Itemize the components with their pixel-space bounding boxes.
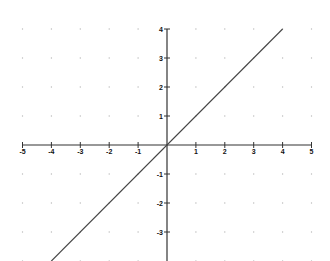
grid-dot — [253, 115, 254, 116]
grid-dot — [80, 86, 81, 87]
y-tick-label: 1 — [159, 113, 163, 120]
grid-dot — [311, 115, 312, 116]
grid-dot — [224, 115, 225, 116]
grid-dot — [282, 202, 283, 203]
grid-dot — [282, 57, 283, 58]
grid-dot — [137, 231, 138, 232]
grid-dot — [22, 202, 23, 203]
grid-dot — [224, 173, 225, 174]
grid-dot — [311, 173, 312, 174]
grid-dot — [224, 202, 225, 203]
grid-dot — [22, 231, 23, 232]
grid-dot — [51, 231, 52, 232]
grid-dot — [253, 202, 254, 203]
grid-dot — [253, 86, 254, 87]
grid-dot — [22, 115, 23, 116]
grid-dot — [253, 173, 254, 174]
grid-dot — [51, 28, 52, 29]
chart-plot: -5-4-3-2-112345 4321-1-2-3 — [0, 0, 330, 261]
grid-dot — [282, 173, 283, 174]
grid-dot — [109, 57, 110, 58]
grid-dot — [253, 28, 254, 29]
grid-dot — [22, 173, 23, 174]
grid-dot — [137, 115, 138, 116]
grid-dot — [282, 115, 283, 116]
grid-dot — [51, 115, 52, 116]
y-tick-label: 3 — [159, 55, 163, 62]
grid-dot — [109, 173, 110, 174]
grid-dot — [109, 28, 110, 29]
grid-dot — [195, 57, 196, 58]
grid-dot — [137, 28, 138, 29]
grid-dot — [195, 231, 196, 232]
x-tick-label: 3 — [252, 148, 256, 155]
y-tick-label: 4 — [159, 26, 163, 33]
grid-dot — [80, 173, 81, 174]
grid-dot — [80, 115, 81, 116]
y-tick-label: 2 — [159, 84, 163, 91]
grid-dot — [195, 28, 196, 29]
grid-dot — [51, 173, 52, 174]
x-tick-label: 4 — [281, 148, 285, 155]
grid-dot — [224, 28, 225, 29]
grid-dot — [51, 86, 52, 87]
x-tick-label: -3 — [77, 148, 83, 155]
x-tick-label: 1 — [194, 148, 198, 155]
grid-dot — [224, 231, 225, 232]
grid-dot — [195, 202, 196, 203]
grid-dot — [80, 202, 81, 203]
grid-dot — [311, 57, 312, 58]
grid-dot — [195, 173, 196, 174]
y-tick-label: -2 — [157, 200, 163, 207]
grid-dot — [51, 57, 52, 58]
grid-dot — [311, 202, 312, 203]
x-tick-label: -1 — [135, 148, 141, 155]
grid-dot — [109, 115, 110, 116]
grid-dot — [22, 57, 23, 58]
y-axis-ticks: 4321-1-2-3 — [157, 26, 170, 236]
x-tick-label: 5 — [310, 148, 314, 155]
grid-dot — [80, 28, 81, 29]
grid-dot — [253, 231, 254, 232]
x-tick-label: -4 — [48, 148, 54, 155]
x-tick-label: -5 — [19, 148, 25, 155]
grid-dot — [311, 231, 312, 232]
y-tick-label: -3 — [157, 229, 163, 236]
x-tick-label: -2 — [106, 148, 112, 155]
grid-dot — [51, 202, 52, 203]
grid-dot — [109, 86, 110, 87]
x-tick-label: 2 — [223, 148, 227, 155]
grid-dot — [109, 231, 110, 232]
y-tick-label: -1 — [157, 171, 163, 178]
grid-dot — [282, 231, 283, 232]
grid-dot — [282, 86, 283, 87]
grid-dot — [137, 86, 138, 87]
grid-dot — [311, 28, 312, 29]
grid-dot — [224, 57, 225, 58]
grid-dot — [311, 86, 312, 87]
grid-dot — [137, 57, 138, 58]
grid-dot — [22, 28, 23, 29]
grid-dot — [80, 57, 81, 58]
grid-dot — [137, 202, 138, 203]
grid-dot — [195, 86, 196, 87]
grid-dot — [22, 86, 23, 87]
